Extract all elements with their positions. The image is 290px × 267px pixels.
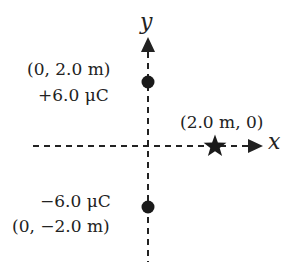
negative-charge-coordinate: (0, −2.0 m) — [12, 218, 110, 235]
y-axis-arrowhead — [141, 37, 155, 52]
positive-charge-coordinate: (0, 2.0 m) — [27, 61, 110, 78]
charge-diagram: y x (0, 2.0 m) +6.0 μC (2.0 m, 0) −6.0 μ… — [0, 0, 290, 267]
field-point-coordinate: (2.0 m, 0) — [180, 114, 263, 131]
x-axis-arrowhead — [248, 139, 263, 153]
star-icon — [204, 135, 227, 157]
positive-charge-dot — [142, 76, 155, 89]
y-axis-label: y — [140, 11, 152, 33]
positive-charge-value: +6.0 μC — [38, 87, 109, 104]
negative-charge-dot — [142, 201, 155, 214]
x-axis-label: x — [268, 131, 280, 153]
negative-charge-value: −6.0 μC — [40, 193, 111, 210]
